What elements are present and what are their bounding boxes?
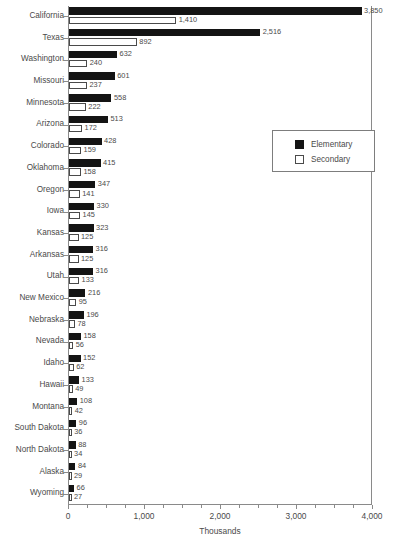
bar-elementary[interactable]: [69, 355, 81, 362]
category-label: Nevada: [0, 333, 64, 349]
bar-elementary[interactable]: [69, 29, 260, 36]
bar-elementary[interactable]: [69, 7, 362, 14]
bar-value-secondary: 125: [79, 232, 94, 242]
bar-value-secondary: 29: [72, 471, 83, 481]
bar-secondary[interactable]: [69, 60, 87, 67]
chart-row: Texas2,516892: [0, 28, 401, 49]
bar-secondary[interactable]: [69, 299, 76, 306]
bar-elementary[interactable]: [69, 138, 102, 145]
bar-group-secondary: 27: [69, 494, 373, 502]
bar-elementary[interactable]: [69, 289, 85, 296]
bar-value-elementary: 558: [111, 93, 126, 103]
category-tick: [63, 255, 68, 256]
category-label: Arizona: [0, 116, 64, 132]
x-axis-minor-tick: [163, 505, 164, 508]
bar-value-elementary: 2,516: [260, 27, 281, 37]
category-label: South Dakota: [0, 420, 64, 436]
bar-value-elementary: 601: [115, 71, 130, 81]
bar-elementary[interactable]: [69, 268, 93, 275]
category-label: Hawaii: [0, 377, 64, 393]
bar-group-secondary: 49: [69, 385, 373, 393]
bar-elementary[interactable]: [69, 203, 94, 210]
x-axis-title: Thousands: [68, 526, 372, 536]
category-tick: [63, 233, 68, 234]
category-tick: [63, 450, 68, 451]
bar-group-elementary: 2,516: [69, 29, 373, 37]
bar-elementary[interactable]: [69, 116, 108, 123]
bar-elementary[interactable]: [69, 376, 79, 383]
chart-row: California3,8501,410: [0, 6, 401, 27]
bar-value-secondary: 133: [79, 275, 94, 285]
bar-elementary[interactable]: [69, 441, 76, 448]
legend-item-secondary[interactable]: Secondary: [295, 152, 350, 166]
bar-secondary[interactable]: [69, 125, 82, 132]
bar-elementary[interactable]: [69, 333, 81, 340]
bar-value-elementary: 316: [93, 266, 108, 276]
bar-secondary[interactable]: [69, 168, 81, 175]
bar-value-secondary: 95: [76, 297, 87, 307]
chart-row: Hawaii13349: [0, 375, 401, 396]
chart-row: Nebraska19678: [0, 310, 401, 331]
bar-secondary[interactable]: [69, 38, 137, 45]
category-tick: [63, 190, 68, 191]
legend-item-elementary[interactable]: Elementary: [295, 137, 352, 151]
category-tick: [63, 103, 68, 104]
bar-value-elementary: 415: [101, 158, 116, 168]
category-tick: [63, 16, 68, 17]
chart-row: North Dakota8834: [0, 440, 401, 461]
bar-group-elementary: 96: [69, 420, 373, 428]
bar-group-elementary: 152: [69, 355, 373, 363]
bar-elementary[interactable]: [69, 224, 94, 231]
bar-secondary[interactable]: [69, 190, 80, 197]
category-label: Oregon: [0, 182, 64, 198]
bar-secondary[interactable]: [69, 147, 81, 154]
category-label: Montana: [0, 399, 64, 415]
category-label: Arkansas: [0, 247, 64, 263]
bar-value-secondary: 78: [75, 319, 86, 329]
bar-elementary[interactable]: [69, 398, 77, 405]
bar-secondary[interactable]: [69, 82, 87, 89]
x-axis-tick-label: 2,000: [210, 511, 231, 521]
bar-secondary[interactable]: [69, 17, 176, 24]
bar-group-elementary: 84: [69, 463, 373, 471]
chart-rows: California3,8501,410Texas2,516892Washing…: [0, 6, 401, 505]
bar-value-secondary: 145: [80, 210, 95, 220]
category-label: Minnesota: [0, 95, 64, 111]
bar-group-elementary: 513: [69, 116, 373, 124]
bar-elementary[interactable]: [69, 51, 117, 58]
chart-row: South Dakota9636: [0, 418, 401, 439]
bar-elementary[interactable]: [69, 94, 111, 101]
category-tick: [63, 407, 68, 408]
bar-group-secondary: 125: [69, 234, 373, 242]
bar-elementary[interactable]: [69, 246, 93, 253]
bar-group-elementary: 347: [69, 181, 373, 189]
bar-secondary[interactable]: [69, 255, 79, 262]
bar-secondary[interactable]: [69, 277, 79, 284]
bar-value-secondary: 892: [137, 37, 152, 47]
bar-elementary[interactable]: [69, 420, 76, 427]
bar-secondary[interactable]: [69, 234, 79, 241]
category-tick: [63, 320, 68, 321]
chart-row: Utah316133: [0, 266, 401, 287]
bar-elementary[interactable]: [69, 72, 115, 79]
bar-group-elementary: 632: [69, 51, 373, 59]
bar-group-elementary: 66: [69, 485, 373, 493]
bar-chart: California3,8501,410Texas2,516892Washing…: [0, 0, 401, 545]
bar-elementary[interactable]: [69, 311, 84, 318]
chart-row: Montana10842: [0, 397, 401, 418]
bar-value-secondary: 158: [81, 167, 96, 177]
category-label: Alaska: [0, 464, 64, 480]
bar-secondary[interactable]: [69, 212, 80, 219]
bar-elementary[interactable]: [69, 159, 101, 166]
bar-value-secondary: 62: [74, 362, 85, 372]
category-tick: [63, 277, 68, 278]
x-axis-minor-tick: [201, 505, 202, 508]
bar-group-elementary: 323: [69, 224, 373, 232]
bar-secondary[interactable]: [69, 103, 86, 110]
bar-value-secondary: 125: [79, 254, 94, 264]
bar-elementary[interactable]: [69, 181, 95, 188]
bar-group-secondary: 78: [69, 320, 373, 328]
bar-value-secondary: 56: [73, 340, 84, 350]
chart-row: Wyoming6627: [0, 483, 401, 504]
category-label: Utah: [0, 268, 64, 284]
